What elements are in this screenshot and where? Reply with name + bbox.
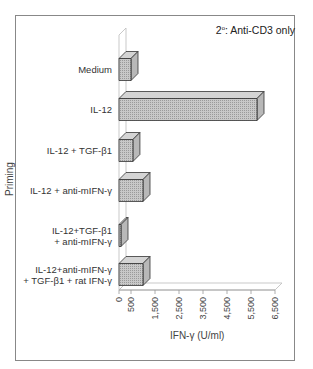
category-label: IL-12+anti-mIFN-γ+ TGF-β1 + rat IFN-γ: [23, 264, 112, 286]
x-tick-label: 0: [114, 297, 124, 327]
bar: [119, 173, 150, 202]
x-axis-label: IFN-γ (U/ml): [170, 330, 224, 341]
x-tick-label: 1,500: [150, 297, 160, 327]
bar: [119, 133, 140, 162]
x-tick-label: 4,500: [222, 297, 232, 327]
x-tick-label: 6,500: [270, 297, 280, 327]
x-tick-label: 500: [126, 297, 136, 327]
category-label: Medium: [78, 64, 112, 75]
x-tick-label: 3,500: [198, 297, 208, 327]
y-axis-label: Priming: [4, 162, 15, 196]
category-label: IL-12+TGF-β1+ anti-mIFN-γ: [52, 225, 112, 247]
category-label: IL-12: [90, 104, 112, 115]
bar: [119, 218, 128, 247]
x-tick-label: 2,500: [174, 297, 184, 327]
bar: [119, 92, 264, 121]
bar: [119, 52, 138, 81]
x-tick-label: 5,500: [246, 297, 256, 327]
category-label: IL-12 + TGF-β1: [47, 145, 112, 156]
bar: [119, 257, 150, 286]
category-label: IL-12 + anti-mIFN-γ: [30, 185, 112, 196]
